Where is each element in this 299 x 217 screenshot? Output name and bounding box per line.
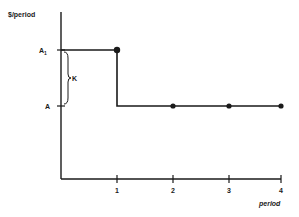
x-tick-label-2: 2 — [171, 187, 175, 194]
y-tick-label-a1: A1 — [39, 47, 47, 56]
marker-1-a1 — [114, 47, 120, 53]
k-label: K — [72, 75, 77, 82]
marker-4-a — [278, 103, 283, 108]
x-tick-label-4: 4 — [279, 187, 283, 194]
marker-2-a — [170, 103, 175, 108]
y-axis-label: $/period — [8, 11, 35, 19]
k-brace — [64, 52, 71, 104]
y-tick-label-a: A — [45, 103, 50, 110]
x-tick-label-1: 1 — [115, 187, 119, 194]
marker-3-a — [226, 103, 231, 108]
x-axis-label: period — [258, 200, 281, 208]
step-series-line — [61, 50, 281, 106]
x-tick-label-3: 3 — [227, 187, 231, 194]
step-chart: $/period A1 A K 1 2 3 4 period — [0, 0, 299, 217]
